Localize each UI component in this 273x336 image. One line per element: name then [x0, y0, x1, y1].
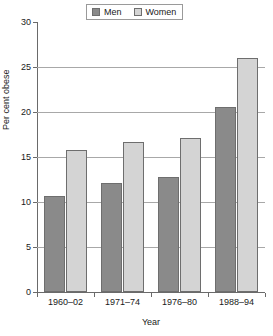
plot-area: 051015202530 [37, 22, 265, 293]
y-tick-label-5: 5 [26, 243, 31, 252]
legend-label-women: Women [146, 8, 177, 17]
bar-women-1 [123, 142, 144, 292]
y-tick-mark-10 [33, 202, 37, 203]
legend-swatch-women [134, 8, 142, 16]
y-tick-mark-5 [33, 247, 37, 248]
bar-men-2 [158, 177, 179, 292]
y-tick-label-20: 20 [21, 108, 31, 117]
x-axis-title: Year [37, 317, 265, 327]
y-tick-label-0: 0 [26, 288, 31, 297]
legend-swatch-men [92, 8, 100, 16]
legend-label-men: Men [104, 8, 122, 17]
x-category-label: 1971–74 [105, 297, 140, 307]
x-tick-mark-1 [94, 293, 95, 297]
obesity-bar-chart: Men Women 051015202530 Per cent obese Ye… [0, 0, 273, 336]
chart-legend: Men Women [86, 4, 183, 20]
y-tick-mark-30 [33, 22, 37, 23]
x-tick-mark-0 [37, 293, 38, 297]
legend-entry-men: Men [92, 8, 122, 17]
bar-women-0 [66, 150, 87, 292]
y-tick-label-25: 25 [21, 63, 31, 72]
y-tick-label-15: 15 [21, 153, 31, 162]
bar-group [158, 22, 201, 292]
bar-men-1 [101, 183, 122, 292]
y-tick-mark-15 [33, 157, 37, 158]
y-tick-mark-20 [33, 112, 37, 113]
x-category-label: 1988–94 [219, 297, 254, 307]
x-category-label: 1960–02 [48, 297, 83, 307]
x-tick-mark-3 [208, 293, 209, 297]
y-tick-label-10: 10 [21, 198, 31, 207]
y-axis-title: Per cent obese [1, 116, 11, 130]
y-tick-mark-25 [33, 67, 37, 68]
x-tick-mark-2 [151, 293, 152, 297]
bar-women-2 [180, 138, 201, 292]
plot-inner: 051015202530 [37, 22, 265, 293]
y-tick-label-30: 30 [21, 18, 31, 27]
bar-men-3 [215, 107, 236, 292]
x-category-label: 1976–80 [162, 297, 197, 307]
bar-women-3 [237, 58, 258, 292]
bar-group [215, 22, 258, 292]
bar-group [44, 22, 87, 292]
bar-group [101, 22, 144, 292]
x-tick-mark-4 [265, 293, 266, 297]
bar-men-0 [44, 196, 65, 292]
legend-entry-women: Women [134, 8, 177, 17]
